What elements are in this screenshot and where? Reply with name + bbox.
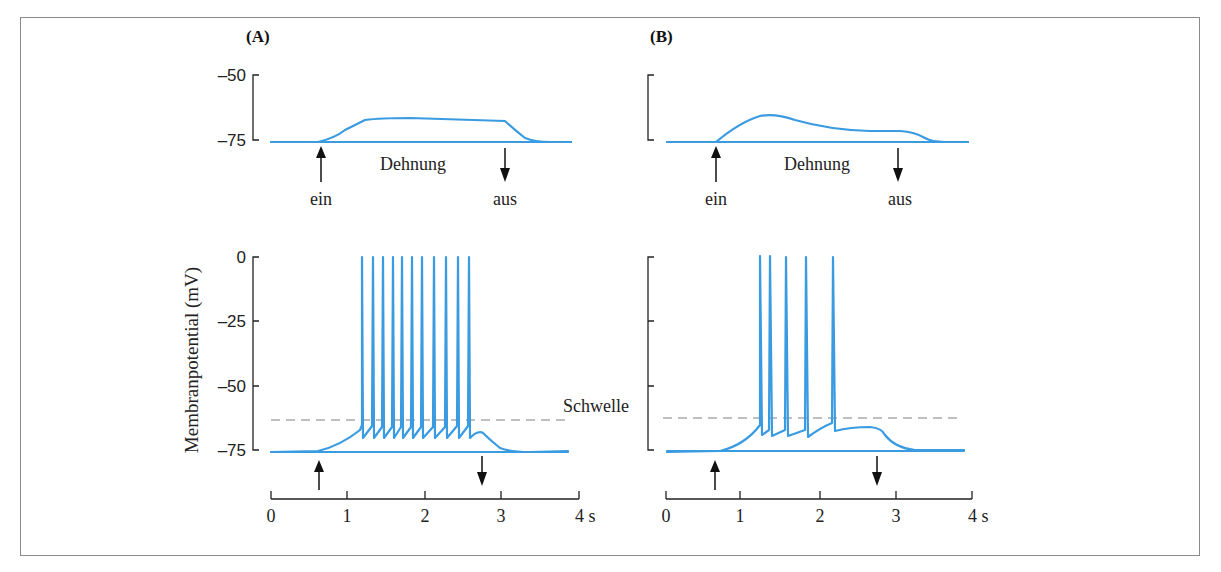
ytick-label: –75 <box>218 131 246 150</box>
arrow-up-icon <box>316 146 326 158</box>
figure-canvas: (A) (B) Membranpotential (mV) –50 –75 De… <box>0 0 1221 572</box>
stretch-label: Dehnung <box>784 154 850 174</box>
xtick-label: 3 <box>497 506 506 526</box>
arrow-down-icon <box>500 168 510 182</box>
on-label: ein <box>310 189 332 209</box>
ytick-label: –25 <box>218 312 246 331</box>
y-axis-bracket <box>253 75 259 140</box>
arrow-up-icon <box>710 460 720 472</box>
xtick-label: 2 <box>421 506 430 526</box>
ytick-label: –50 <box>218 66 246 85</box>
y-axis-bracket <box>648 75 654 140</box>
stretch-label: Dehnung <box>380 154 446 174</box>
y-axis <box>253 257 259 450</box>
ytick-label: 0 <box>237 248 246 267</box>
action-potential-trace <box>271 257 568 452</box>
x-axis <box>271 491 579 499</box>
arrow-down-icon <box>893 168 903 182</box>
xtick-label: 1 <box>343 506 352 526</box>
xtick-label: 4 s <box>575 506 596 526</box>
xtick-label: 0 <box>267 506 276 526</box>
on-label: ein <box>705 189 727 209</box>
receptor-potential-trace <box>271 118 571 142</box>
panel-a-top: –50 –75 Dehnung ein aus <box>218 66 571 209</box>
panel-label-b: (B) <box>650 27 673 46</box>
y-axis <box>648 257 654 450</box>
ytick-label: –75 <box>218 441 246 460</box>
panel-b-top: Dehnung ein aus <box>648 75 968 209</box>
xtick-label: 3 <box>892 506 901 526</box>
action-potential-trace <box>667 256 964 452</box>
x-axis <box>666 491 972 499</box>
off-label: aus <box>493 189 517 209</box>
receptor-potential-trace <box>667 115 968 142</box>
panel-a-bottom: 0 –25 –50 –75 Schwelle 0 1 2 3 4 s <box>218 248 629 526</box>
threshold-label: Schwelle <box>563 396 629 416</box>
arrow-up-icon <box>711 146 721 158</box>
panel-label-a: (A) <box>246 27 270 46</box>
ytick-label: –50 <box>218 377 246 396</box>
xtick-label: 2 <box>816 506 825 526</box>
panel-b-bottom: 0 1 2 3 4 s <box>648 256 989 526</box>
xtick-label: 1 <box>736 506 745 526</box>
off-label: aus <box>888 189 912 209</box>
y-axis-label: Membranpotential (mV) <box>181 267 203 453</box>
xtick-label: 0 <box>662 506 671 526</box>
xtick-label: 4 s <box>968 506 989 526</box>
arrow-up-icon <box>314 460 324 472</box>
arrow-down-icon <box>872 472 882 486</box>
arrow-down-icon <box>477 472 487 486</box>
